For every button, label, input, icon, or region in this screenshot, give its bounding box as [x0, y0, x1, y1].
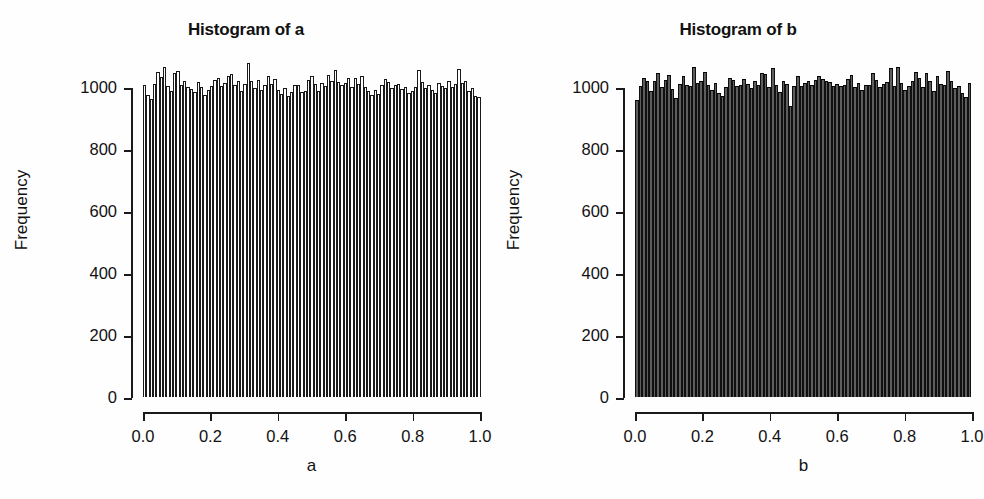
x-tick-mark	[770, 412, 772, 421]
y-tick-mark	[124, 336, 132, 338]
y-tick-label: 1000	[0, 79, 117, 96]
y-tick-mark	[616, 336, 624, 338]
x-tick-label: 0.0	[605, 427, 665, 445]
x-tick-label: 0.6	[807, 427, 867, 445]
x-tick-mark	[278, 412, 280, 421]
panel-b-y-axis-line	[623, 88, 625, 398]
x-tick-label: 0.4	[248, 427, 308, 445]
figure-canvas: Histogram of a 02004006008001000 Frequen…	[0, 0, 984, 499]
histogram-panel-a: Histogram of a 02004006008001000 Frequen…	[0, 0, 492, 499]
x-tick-mark	[837, 412, 839, 421]
x-tick-label: 0.2	[672, 427, 732, 445]
histogram-panel-b: Histogram of b 02004006008001000 Frequen…	[492, 0, 984, 499]
y-tick-mark	[124, 274, 132, 276]
y-tick-mark	[616, 150, 624, 152]
x-tick-label: 0.4	[740, 427, 800, 445]
y-tick-mark	[616, 398, 624, 400]
y-tick-mark	[616, 88, 624, 90]
x-tick-mark	[210, 412, 212, 421]
y-tick-mark	[616, 212, 624, 214]
histogram-bar	[968, 83, 972, 397]
panel-a-plot-area	[143, 63, 480, 397]
y-tick-label: 1000	[492, 79, 609, 96]
y-tick-mark	[124, 150, 132, 152]
panel-b-y-axis-title: Frequency	[504, 130, 524, 290]
x-tick-mark	[972, 412, 974, 421]
panel-a-y-axis-title: Frequency	[12, 130, 32, 290]
x-tick-label: 0.8	[383, 427, 443, 445]
x-tick-mark	[635, 412, 637, 421]
y-tick-label: 200	[0, 327, 117, 344]
y-tick-label: 200	[492, 327, 609, 344]
x-tick-label: 0.0	[113, 427, 173, 445]
x-tick-mark	[345, 412, 347, 421]
y-tick-label: 0	[492, 389, 609, 406]
x-tick-label: 0.8	[875, 427, 935, 445]
y-tick-mark	[616, 274, 624, 276]
x-tick-mark	[143, 412, 145, 421]
panel-a-y-axis-line	[131, 88, 133, 398]
y-tick-mark	[124, 88, 132, 90]
histogram-bar	[477, 97, 480, 397]
panel-a-x-axis-line	[143, 412, 480, 414]
y-tick-mark	[124, 398, 132, 400]
panel-a-x-axis-title: a	[143, 456, 480, 476]
x-tick-mark	[480, 412, 482, 421]
x-tick-label: 0.6	[315, 427, 375, 445]
panel-b-plot-area	[635, 63, 972, 397]
y-tick-mark	[124, 212, 132, 214]
x-tick-label: 1.0	[942, 427, 984, 445]
panel-a-title: Histogram of a	[0, 20, 492, 40]
panel-b-x-axis-title: b	[635, 456, 972, 476]
panel-b-bars	[635, 63, 972, 397]
x-tick-mark	[413, 412, 415, 421]
panel-b-x-axis-line	[635, 412, 972, 414]
x-tick-mark	[702, 412, 704, 421]
y-tick-label: 0	[0, 389, 117, 406]
x-tick-label: 0.2	[180, 427, 240, 445]
x-tick-mark	[905, 412, 907, 421]
panel-b-title: Histogram of b	[492, 20, 984, 40]
panel-a-bars	[143, 63, 480, 397]
